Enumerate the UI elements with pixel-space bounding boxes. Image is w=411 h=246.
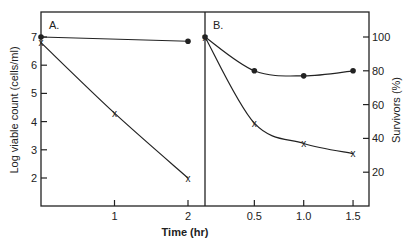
cross-marker: x [186, 173, 191, 184]
y-axis-label-left: Log viable count (cells/ml) [8, 46, 20, 173]
x-axis-label: Time (hr) [162, 226, 209, 238]
panel-a-label: A. [49, 19, 59, 31]
x-tick-label: 1.5 [345, 210, 360, 222]
y-tick-label-right: 60 [372, 99, 384, 111]
y-tick-label: 4 [31, 116, 37, 128]
panel-b-label: B. [213, 19, 223, 31]
cross-marker: x [112, 108, 117, 119]
y-tick-label-right: 40 [372, 132, 384, 144]
dot-marker [301, 73, 307, 79]
y-tick-label-right: 100 [372, 31, 390, 43]
y-tick-label-right: 20 [372, 166, 384, 178]
cross-marker: x [351, 148, 356, 159]
x-tick-label: 1.0 [296, 210, 311, 222]
cross-marker: x [39, 37, 44, 48]
data-markers: xxxxxxx [38, 32, 356, 184]
x-tick-label: 0.5 [247, 210, 262, 222]
y-axis-label-right: Survivors (%) [390, 77, 402, 143]
y-tick-label: 3 [31, 144, 37, 156]
cross-marker: x [252, 118, 257, 129]
chart: 23456712204060801000.51.01.5 xxxxxxx A. … [0, 0, 411, 246]
y-tick-label: 6 [31, 59, 37, 71]
y-tick-label: 2 [31, 172, 37, 184]
dot-marker [350, 68, 356, 74]
y-tick-label: 7 [31, 31, 37, 43]
x-tick-label: 2 [185, 210, 191, 222]
y-tick-label: 5 [31, 87, 37, 99]
dot-marker [252, 68, 258, 74]
cross-marker: x [203, 32, 208, 43]
series-curve-dots [41, 37, 188, 41]
x-tick-label: 1 [111, 210, 117, 222]
series-curve-dots [205, 37, 353, 76]
data-curves [41, 37, 353, 178]
y-tick-label-right: 80 [372, 65, 384, 77]
dot-marker [185, 38, 191, 44]
cross-marker: x [301, 138, 306, 149]
tick-labels: 23456712204060801000.51.01.5 [31, 31, 390, 222]
